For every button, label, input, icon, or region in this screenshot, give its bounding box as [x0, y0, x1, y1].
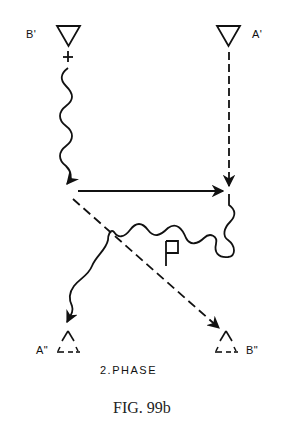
label-a-double-prime: A": [36, 344, 48, 356]
plus-sign-icon: [63, 51, 73, 62]
a-double-prime-triangle-icon: [57, 331, 80, 352]
phase-label: 2.PHASE: [100, 364, 157, 376]
a-prime-triangle-icon: [217, 26, 240, 46]
b-prime-triangle-icon: [57, 26, 80, 46]
label-b-prime: B': [26, 28, 36, 40]
wavy-edge-junction-to-a-double-prime: [67, 194, 234, 322]
b-double-prime-triangle-icon: [215, 331, 238, 352]
figure-caption: FIG. 99b: [113, 399, 171, 417]
wavy-edge-b-prime-to-junction: [60, 68, 72, 184]
region-p-glyph: [166, 241, 178, 266]
label-a-prime: A': [252, 28, 262, 40]
label-b-double-prime: B": [246, 344, 258, 356]
dashed-edge-junction-to-b-double-prime: [73, 199, 219, 328]
